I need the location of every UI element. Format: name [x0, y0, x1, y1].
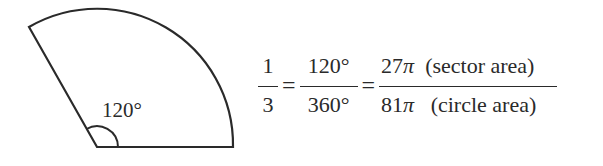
- equals-sign: =: [362, 72, 376, 99]
- numerator: 1: [263, 51, 274, 81]
- numerator: 27π (sector area): [379, 51, 534, 81]
- pi-symbol: π: [403, 92, 414, 117]
- fraction-bar: [300, 86, 358, 87]
- pi-symbol: π: [403, 53, 414, 78]
- fraction-one-third: 1 3: [258, 51, 278, 120]
- fraction-bar: [258, 86, 278, 87]
- circle-area-note: (circle area): [414, 92, 536, 117]
- sector-area-value: 27: [381, 53, 403, 78]
- fraction-degrees: 120° 360°: [300, 51, 358, 120]
- numerator: 120°: [308, 51, 350, 81]
- denominator: 360°: [308, 90, 350, 120]
- angle-label: 120°: [102, 98, 142, 122]
- fraction-bar: [379, 86, 557, 87]
- circle-area-value: 81: [381, 92, 403, 117]
- sector-diagram: 120°: [0, 0, 250, 166]
- fraction-areas: 27π (sector area) 81π (circle area): [379, 51, 557, 120]
- denominator: 3: [263, 90, 274, 120]
- proportion-equation: 1 3 = 120° 360° = 27π (sector area) 81π …: [258, 42, 557, 128]
- sector-area-note: (sector area): [414, 53, 534, 78]
- sector-shape: [0, 0, 250, 166]
- denominator: 81π (circle area): [379, 90, 536, 120]
- equals-sign: =: [282, 72, 296, 99]
